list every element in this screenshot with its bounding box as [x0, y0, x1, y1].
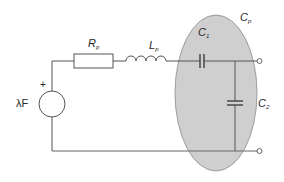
resistor-label: Rp — [88, 38, 99, 50]
enclosure-label-sub: p — [248, 18, 251, 24]
enclosure-label: Cp — [240, 12, 251, 24]
circuit-diagram — [0, 0, 284, 182]
inductor-label: Lp — [149, 40, 158, 52]
capacitor-c2-label: C2 — [258, 98, 269, 110]
capacitor-c1-label-sub: 1 — [206, 33, 209, 39]
capacitor-c2-label-main: C — [258, 97, 266, 109]
resistor-icon — [74, 54, 113, 68]
resistor-label-sub: p — [96, 44, 99, 50]
top-output-terminal — [257, 59, 262, 64]
inductor-label-sub: p — [155, 46, 158, 52]
enclosure-label-main: C — [240, 11, 248, 23]
capacitor-c2-label-sub: 2 — [266, 104, 269, 110]
source-polarity-label: + — [40, 80, 46, 90]
inductor-icon — [126, 56, 166, 61]
resistor-label-main: R — [88, 37, 96, 49]
voltage-source-icon — [39, 91, 65, 117]
capacitor-c1-label: C1 — [198, 27, 209, 39]
source-label: λF — [16, 98, 28, 109]
bottom-output-terminal — [257, 149, 262, 154]
capacitor-c1-label-main: C — [198, 26, 206, 38]
shaded-region-ellipse — [175, 15, 257, 171]
